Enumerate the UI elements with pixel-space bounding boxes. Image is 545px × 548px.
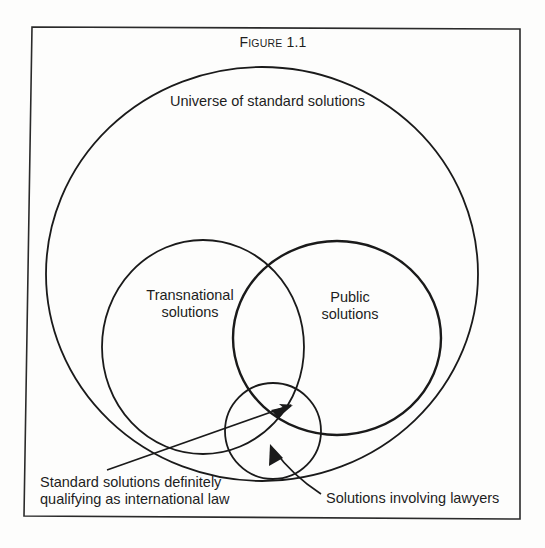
venn-diagram-figure: Figure 1.1 Universe of standard solution… — [0, 0, 545, 548]
international-law-arrow — [107, 405, 291, 470]
international-law-annotation-line2: qualifying as international law — [40, 491, 220, 508]
transnational-circle — [102, 240, 304, 454]
public-label: Public solutions — [310, 289, 390, 323]
figure-title-first-letter: F — [239, 34, 248, 50]
transnational-label: Transnational solutions — [130, 287, 250, 321]
venn-diagram-canvas — [0, 0, 545, 548]
lawyers-arrowhead-icon — [269, 444, 283, 466]
transnational-label-line1: Transnational — [130, 287, 250, 304]
lawyers-annotation: Solutions involving lawyers — [326, 490, 499, 507]
international-law-annotation-line1: Standard solutions definitely — [40, 474, 220, 491]
public-label-line1: Public — [310, 289, 390, 306]
figure-title-smallcaps: igure — [248, 37, 282, 49]
universe-label: Universe of standard solutions — [170, 93, 360, 110]
transnational-label-line2: solutions — [130, 304, 250, 321]
public-circle — [233, 241, 441, 435]
figure-title: Figure 1.1 — [228, 34, 318, 52]
international-law-annotation: Standard solutions definitely qualifying… — [40, 474, 220, 508]
universe-circle — [46, 67, 478, 481]
figure-title-number: 1.1 — [287, 34, 307, 50]
public-label-line2: solutions — [310, 306, 390, 323]
